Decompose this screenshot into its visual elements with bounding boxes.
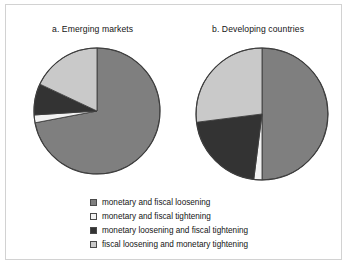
pie-svg-emerging-markets [32,46,162,176]
swatch-monetary-loosening-and-fiscal-tightening [90,227,97,234]
pie-slice [196,48,262,122]
swatch-monetary-and-fiscal-tightening [90,213,97,220]
legend-item: monetary and fiscal tightening [90,210,310,223]
pie-svg-developing-countries [194,46,330,182]
legend-item-label: monetary loosening and fiscal tightening [102,226,248,235]
swatch-fiscal-loosening-and-monetary-tightening [90,241,97,248]
legend-item-label: fiscal loosening and monetary tightening [102,240,248,249]
legend-item-label: monetary and fiscal tightening [102,212,211,221]
pie-slice [197,114,262,179]
legend-item: monetary and fiscal loosening [90,196,310,209]
figure-frame: a. Emerging markets b. Developing countr… [5,4,342,260]
pie-slice [262,48,328,180]
pie-chart-developing-countries [194,46,330,182]
legend-item-label: monetary and fiscal loosening [102,198,210,207]
pie-chart-emerging-markets [32,46,162,176]
chart-title-emerging-markets: a. Emerging markets [52,24,133,34]
swatch-monetary-and-fiscal-loosening [90,199,97,206]
legend-item: monetary loosening and fiscal tightening [90,224,310,237]
legend: monetary and fiscal loosening monetary a… [90,196,310,252]
legend-item: fiscal loosening and monetary tightening [90,238,310,251]
chart-title-developing-countries: b. Developing countries [212,24,304,34]
